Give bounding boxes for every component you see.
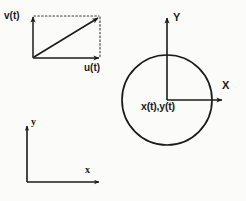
label-u-of-t: u(t): [84, 63, 100, 73]
label-v-of-t: v(t): [4, 11, 20, 21]
panel-circle-trajectory: [122, 18, 222, 145]
label-axis-X: X: [222, 80, 229, 91]
figure-canvas: v(t) u(t) Y X x(t),y(t) y x: [0, 0, 246, 201]
label-axis-Y: Y: [173, 12, 180, 23]
figure-vector-layer: [0, 0, 246, 201]
input-vector-arrow: [34, 18, 98, 57]
label-point-xy-of-t: x(t),y(t): [141, 101, 175, 112]
label-axis-y-lower: y: [31, 117, 36, 127]
label-axis-x-lower: x: [85, 165, 90, 175]
panel-input-plane: [33, 16, 100, 58]
